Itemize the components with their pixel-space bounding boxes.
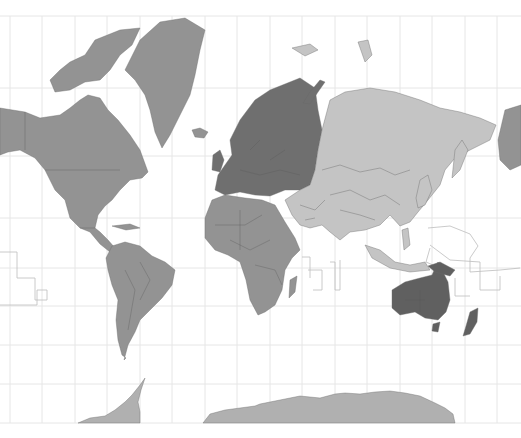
severnaya-zemlya	[358, 40, 372, 62]
canadian-arctic-islands	[50, 28, 140, 92]
world-map	[0, 0, 521, 438]
world-map-svg	[0, 0, 521, 438]
philippines	[402, 228, 410, 250]
svalbard	[292, 44, 318, 56]
madagascar	[289, 276, 297, 298]
iceland	[192, 128, 208, 138]
alaska	[498, 105, 521, 170]
tasmania	[432, 322, 440, 332]
caribbean-islands	[112, 224, 140, 230]
antarctica-east	[203, 391, 455, 423]
north-america	[0, 95, 148, 258]
africa	[205, 195, 300, 315]
europe	[215, 78, 322, 196]
greenland	[125, 18, 205, 148]
antarctica-peninsula	[78, 378, 145, 423]
